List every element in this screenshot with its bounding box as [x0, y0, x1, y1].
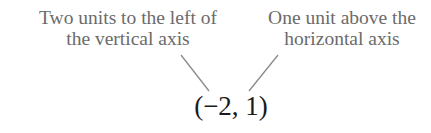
ordered-pair-label: (−2, 1)	[176, 90, 286, 122]
leader-line-x	[181, 55, 209, 91]
leader-line-y	[249, 55, 278, 91]
